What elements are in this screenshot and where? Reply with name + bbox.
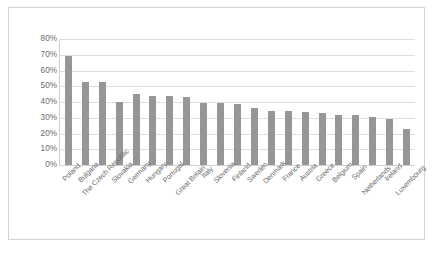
bar-slot <box>263 39 280 165</box>
bar-greece[interactable] <box>319 113 326 165</box>
x-label-slot: Portugal <box>161 166 178 238</box>
x-axis-category-labels: PolandBulgariaThe Czech RepublicSlovakia… <box>60 166 415 238</box>
bar-slot <box>331 39 348 165</box>
y-axis-tick-70pct: 70% <box>21 51 57 59</box>
bar-sweden[interactable] <box>251 108 258 165</box>
bar-slot <box>364 39 381 165</box>
bar-slot <box>212 39 229 165</box>
chart-plot-wrapper: 0%10%20%30%40%50%60%70%80% PolandBulgari… <box>9 8 424 239</box>
x-label-slot: Slovakia <box>111 166 128 238</box>
bar-spain[interactable] <box>352 115 359 165</box>
bar-slot <box>111 39 128 165</box>
bar-slot <box>398 39 415 165</box>
bar-slot <box>94 39 111 165</box>
x-label-slot: France <box>280 166 297 238</box>
bar-slot <box>145 39 162 165</box>
x-label-slot: Denmark <box>263 166 280 238</box>
bar-netherlands[interactable] <box>369 117 376 165</box>
x-axis-label-luxembourg: Luxembourg <box>393 163 427 197</box>
bar-luxembourg[interactable] <box>403 129 410 165</box>
y-axis-tick-50pct: 50% <box>21 82 57 90</box>
bar-slot <box>347 39 364 165</box>
bar-slot <box>195 39 212 165</box>
y-axis-tick-30pct: 30% <box>21 114 57 122</box>
x-label-slot: Austria <box>297 166 314 238</box>
x-label-slot: Greece <box>314 166 331 238</box>
x-label-slot: Bulgaria <box>77 166 94 238</box>
x-label-slot: Netherlands <box>364 166 381 238</box>
bar-slot <box>178 39 195 165</box>
x-label-slot: Sweden <box>246 166 263 238</box>
bar-the-czech-republic[interactable] <box>99 82 106 165</box>
bar-denmark[interactable] <box>268 111 275 165</box>
bar-france[interactable] <box>285 111 292 165</box>
bar-poland[interactable] <box>65 56 72 165</box>
bar-bulgaria[interactable] <box>82 82 89 165</box>
bar-slot <box>280 39 297 165</box>
bar-slot <box>128 39 145 165</box>
y-axis-tick-10pct: 10% <box>21 145 57 153</box>
bar-slot <box>161 39 178 165</box>
bar-slot <box>246 39 263 165</box>
y-axis-tick-0pct: 0% <box>21 161 57 169</box>
bar-austria[interactable] <box>302 112 309 165</box>
x-label-slot: Luxembourg <box>398 166 415 238</box>
bar-series <box>60 39 415 165</box>
x-label-slot: Finland <box>229 166 246 238</box>
chart-frame: 0%10%20%30%40%50%60%70%80% PolandBulgari… <box>8 7 425 240</box>
bar-hungary[interactable] <box>149 96 156 165</box>
x-label-slot: Germany <box>128 166 145 238</box>
x-label-slot: Belgium <box>331 166 348 238</box>
bar-slot <box>297 39 314 165</box>
bar-slot <box>381 39 398 165</box>
y-axis-tick-80pct: 80% <box>21 35 57 43</box>
bar-germany[interactable] <box>133 94 140 165</box>
bar-belgium[interactable] <box>335 115 342 165</box>
x-label-slot: Slovenia <box>212 166 229 238</box>
x-label-slot: Spain <box>347 166 364 238</box>
x-label-slot: Ireland <box>381 166 398 238</box>
bar-slot <box>229 39 246 165</box>
y-axis-tick-60pct: 60% <box>21 66 57 74</box>
plot-area <box>60 39 415 165</box>
bar-italy[interactable] <box>200 103 207 165</box>
x-label-slot: The Czech Republic <box>94 166 111 238</box>
x-label-slot: Poland <box>60 166 77 238</box>
y-axis-tick-20pct: 20% <box>21 129 57 137</box>
x-label-slot: Hungary <box>145 166 162 238</box>
bar-slovenia[interactable] <box>217 103 224 165</box>
x-label-slot: Italy <box>195 166 212 238</box>
bar-portugal[interactable] <box>166 96 173 165</box>
bar-great-britain[interactable] <box>183 97 190 166</box>
x-label-slot: Great Britain <box>178 166 195 238</box>
bar-slot <box>314 39 331 165</box>
y-axis-tick-labels: 0%10%20%30%40%50%60%70%80% <box>21 33 57 165</box>
bar-slot <box>77 39 94 165</box>
bar-ireland[interactable] <box>386 119 393 165</box>
bar-finland[interactable] <box>234 104 241 165</box>
bar-slot <box>60 39 77 165</box>
y-axis-tick-40pct: 40% <box>21 98 57 106</box>
